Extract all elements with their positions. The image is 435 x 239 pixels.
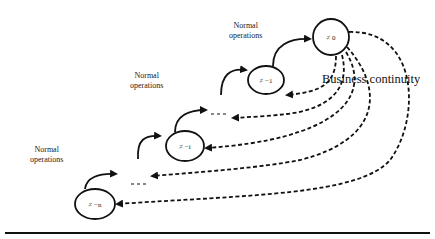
bottom-rule [5, 232, 430, 234]
normal-operation-arrows [85, 39, 310, 189]
node-minus-i-label: ≠ −i [179, 143, 191, 151]
diagram-canvas: ≠ 0 ≠ −1 ≠ −i ≠ −n [0, 0, 435, 239]
node-minus-one-label: ≠ −1 [259, 77, 273, 85]
business-continuity-arrows [117, 32, 409, 204]
node-minus-i: ≠ −i [166, 131, 204, 161]
node-zero-label: ≠ 0 [326, 34, 336, 42]
node-minus-n: ≠ −n [75, 189, 115, 219]
normal-operations-label-top: Normal operations [229, 21, 262, 41]
node-zero: ≠ 0 [313, 19, 349, 55]
normal-operations-label-mid: Normal operations [130, 71, 163, 91]
node-minus-one: ≠ −1 [248, 66, 284, 94]
business-continuity-label: Business continuity [322, 72, 420, 87]
normal-operations-label-left: Normal operations [30, 145, 63, 165]
business-continuity-diagram: ≠ 0 ≠ −1 ≠ −i ≠ −n [0, 0, 435, 239]
node-minus-n-label: ≠ −n [88, 201, 102, 209]
